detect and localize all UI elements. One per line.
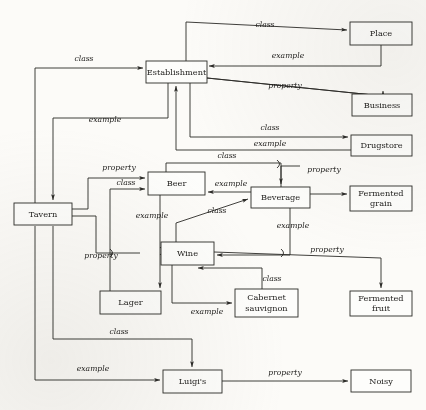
edge-cabernet-wine-class (198, 268, 262, 289)
edge-tavern-beer-class (110, 189, 145, 300)
node-label-fermentedgrain-line2: grain (370, 198, 393, 208)
node-fermentedfruit[interactable]: Fermentedfruit (350, 291, 412, 316)
node-label-beverage: Beverage (261, 192, 300, 202)
diagram-canvas: EstablishmentPlaceBusinessDrugstoreTaver… (0, 0, 426, 410)
edge-wine-cabernet-example (172, 265, 232, 303)
edge-label-e10-class: class (217, 151, 236, 160)
node-label-luigis: Luigi's (179, 376, 207, 386)
node-label-drugstore: Drugstore (360, 140, 402, 150)
node-label-fermentedfruit-line2: fruit (372, 303, 391, 313)
edge-label-e22-property: property (268, 368, 302, 377)
node-label-noisy: Noisy (369, 376, 393, 386)
node-label-business: Business (364, 100, 401, 110)
node-label-fermentedgrain: Fermented (358, 188, 403, 198)
edge-label-e2-example: example (89, 115, 122, 124)
node-place[interactable]: Place (350, 22, 412, 45)
edge-label-e6-class: class (260, 123, 279, 132)
node-beer[interactable]: Beer (148, 172, 205, 195)
node-label-cabernet-line2: sauvignon (245, 303, 288, 313)
edge-label-e14-property: property (84, 251, 118, 260)
edge-label-e7-example: example (254, 139, 287, 148)
edge-beverage-wine-example (217, 208, 290, 255)
edge-label-e15-class: class (207, 206, 226, 215)
line-hop (281, 249, 284, 257)
edge-label-e8-property: property (102, 163, 136, 172)
edge-label-e11-example: example (215, 179, 248, 188)
edge-wine-fermentedfruit-property (214, 252, 381, 288)
edge-label-e5-property: property (268, 81, 302, 90)
node-lager[interactable]: Lager (100, 291, 161, 314)
node-tavern[interactable]: Tavern (14, 203, 72, 225)
edge-label-e20-class: class (109, 327, 128, 336)
edge-label-e18-example: example (191, 307, 224, 316)
edge-label-e16-example: example (277, 221, 310, 230)
diagram-svg: EstablishmentPlaceBusinessDrugstoreTaver… (0, 0, 426, 410)
node-luigis[interactable]: Luigi's (163, 370, 222, 393)
node-label-fermentedfruit: Fermented (358, 293, 403, 303)
node-establishment[interactable]: Establishment (146, 61, 207, 83)
node-fermentedgrain[interactable]: Fermentedgrain (350, 186, 412, 211)
node-beverage[interactable]: Beverage (251, 187, 310, 208)
node-noisy[interactable]: Noisy (351, 370, 411, 392)
node-label-cabernet: Cabernet (247, 292, 286, 302)
node-business[interactable]: Business (352, 94, 412, 116)
node-wine[interactable]: Wine (161, 242, 214, 265)
edge-label-e21-example: example (77, 364, 110, 373)
edge-label-e3-class: class (255, 20, 274, 29)
edge-label-e17-property: property (310, 245, 344, 254)
node-cabernet[interactable]: Cabernetsauvignon (235, 289, 298, 317)
edge-beverage-fermentedgrain-riser (281, 166, 300, 187)
edge-layer (35, 22, 383, 381)
edge-label-e12-property: property (307, 165, 341, 174)
edge-label-e19-class: class (262, 274, 281, 283)
line-hop (277, 160, 280, 168)
edge-label-e13-example: example (136, 211, 169, 220)
node-label-place: Place (370, 28, 393, 38)
node-label-lager: Lager (118, 297, 142, 307)
node-label-beer: Beer (167, 178, 187, 188)
edge-label-e9-class: class (116, 178, 135, 187)
node-drugstore[interactable]: Drugstore (351, 135, 412, 156)
node-label-wine: Wine (177, 248, 198, 258)
node-label-tavern: Tavern (29, 209, 58, 219)
node-label-establishment: Establishment (147, 67, 207, 77)
edge-label-e4-example: example (272, 51, 305, 60)
edge-label-e1-class: class (74, 54, 93, 63)
edge-tavern-lager-property (72, 216, 140, 253)
